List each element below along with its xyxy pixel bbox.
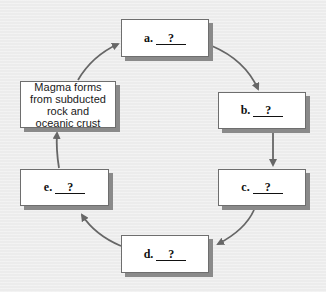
box-a: a. ? <box>121 19 209 57</box>
arrow-start-to-a <box>78 44 118 80</box>
box-d-letter: d. <box>144 247 154 262</box>
arrow-c-to-d <box>218 210 254 244</box>
box-a-label: a. ? <box>144 31 186 46</box>
box-c: c. ? <box>218 169 306 206</box>
box-e-letter: e. <box>44 180 52 195</box>
start-box-text: Magma forms from subducted rock and ocea… <box>30 81 106 129</box>
box-start-magma: Magma forms from subducted rock and ocea… <box>20 81 116 128</box>
start-line-2: from subducted <box>30 93 106 105</box>
box-b: b. ? <box>218 92 306 129</box>
box-c-label: c. ? <box>241 180 282 195</box>
box-d: d. ? <box>121 235 209 273</box>
box-c-blank: ? <box>253 181 283 194</box>
box-a-blank: ? <box>156 32 186 45</box>
box-a-letter: a. <box>144 31 153 46</box>
box-e-blank: ? <box>55 181 85 194</box>
start-line-3: rock and <box>30 105 106 117</box>
rock-cycle-diagram: a. ? Magma forms from subducted rock and… <box>0 0 326 292</box>
box-e-label: e. ? <box>44 180 85 195</box>
box-b-label: b. ? <box>241 103 284 118</box>
box-b-blank: ? <box>253 104 283 117</box>
arrow-d-to-e <box>82 215 121 246</box>
box-e: e. ? <box>20 169 109 206</box>
box-b-letter: b. <box>241 103 251 118</box>
box-d-label: d. ? <box>144 247 187 262</box>
box-d-blank: ? <box>156 248 186 261</box>
box-c-letter: c. <box>241 180 249 195</box>
arrow-a-to-b <box>212 46 258 89</box>
arrow-e-to-start <box>57 133 59 168</box>
start-line-4: oceanic crust <box>30 117 106 129</box>
start-line-1: Magma forms <box>30 81 106 93</box>
